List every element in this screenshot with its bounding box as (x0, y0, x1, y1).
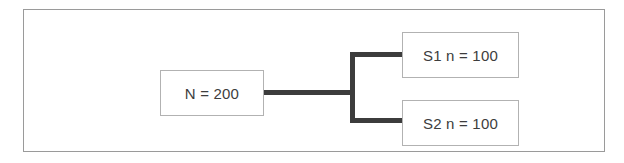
connector-stem (264, 90, 352, 95)
node-parent-label: N = 200 (185, 85, 239, 102)
figure-root: N = 200 S1 n = 100 S2 n = 100 (0, 0, 624, 163)
figure-frame: N = 200 S1 n = 100 S2 n = 100 (23, 9, 605, 152)
node-group-s1: S1 n = 100 (402, 32, 519, 78)
node-group-s1-label: S1 n = 100 (423, 47, 498, 64)
connector-arm-to-group-2 (350, 118, 404, 123)
connector-vertical-bar (350, 52, 355, 123)
node-group-s2: S2 n = 100 (402, 100, 519, 146)
node-group-s2-label: S2 n = 100 (423, 115, 498, 132)
node-parent-total: N = 200 (160, 70, 264, 116)
connector-arm-to-group-1 (350, 52, 404, 57)
